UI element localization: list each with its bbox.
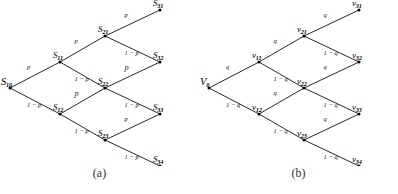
node-subscript: 34 [157,158,163,165]
node-subscript: 11 [57,54,63,61]
panel-b-option-lattice: (b) q1 − qq1 − qq1 − qq1 − qq1 − qq1 − q… [199,0,398,194]
edge-probability-label: 1 − q [274,128,288,135]
lattice-edge [259,36,304,62]
lattice-edge [304,10,359,36]
lattice-node-label: S12 [53,103,64,112]
panel-b-caption: (b) [199,166,398,181]
lattice-node-label: V0 [200,77,210,88]
lattice-node-label: S33 [153,103,164,112]
edge-probability-label: 1 − p [75,76,89,83]
edge-probability-label: q [226,64,229,71]
node-subscript: 21 [301,28,307,35]
node-subscript: 31 [356,2,362,9]
node-subscript: 11 [256,54,262,61]
binomial-lattice-figure: (a) p1 − pp1 − pp1 − pp1 − pp1 − pp1 − p… [0,0,398,194]
lattice-node-label: v11 [252,51,262,60]
node-subscript: 21 [102,28,108,35]
edge-probability-label: 1 − p [125,154,139,161]
node-subscript: 22 [102,80,108,87]
node-subscript: 22 [301,80,307,87]
lattice-node-label: v22 [297,77,307,86]
panel-a-asset-lattice: (a) p1 − pp1 − pp1 − pp1 − pp1 − pp1 − p… [0,0,199,194]
lattice-node-label: S32 [153,51,164,60]
edge-probability-label: q [324,64,327,71]
lattice-node-label: v21 [297,25,307,34]
edge-probability-label: 1 − q [226,102,240,109]
lattice-node-label: S23 [98,129,109,138]
lattice-edge [10,62,60,88]
edge-probability-label: 1 − q [274,76,288,83]
edge-probability-label: p [125,64,129,72]
lattice-edge [105,10,160,36]
edge-probability-label: 1 − q [324,154,338,161]
node-subscript: 32 [356,54,362,61]
edge-probability-label: p [27,64,30,71]
node-subscript: 32 [157,54,163,61]
edge-probability-label: p [75,90,79,98]
node-subscript: 23 [301,132,307,139]
lattice-node-label: S22 [98,77,109,86]
panel-a-caption: (a) [0,166,199,181]
lattice-edge [304,62,359,88]
node-subscript: 12 [57,106,63,113]
lattice-node-label: S21 [98,25,109,34]
lattice-node-label: v32 [352,51,362,60]
lattice-edge [105,62,160,88]
lattice-node-label: S10 [1,77,12,88]
lattice-node-label: S31 [153,0,164,8]
lattice-node-label: v23 [297,129,307,138]
lattice-node-label: S34 [153,155,164,164]
edge-probability-label: q [324,12,327,19]
node-subscript: 0 [206,81,209,88]
edge-probability-label: 1 − q [324,102,338,109]
edge-probability-label: p [125,12,128,19]
edge-probability-label: p [125,116,128,123]
edge-probability-label: q [324,116,327,123]
lattice-node-label: S11 [53,51,63,60]
lattice-edge [60,88,105,114]
lattice-node-label: v12 [252,103,262,112]
edge-probability-label: 1 − q [324,50,338,57]
edge-probability-label: 1 − p [27,102,41,109]
edge-probability-label: q [274,38,277,45]
lattice-edge [259,88,304,114]
node-subscript: 12 [256,106,262,113]
lattice-node-label: v33 [352,103,362,112]
lattice-node-label: v31 [352,0,362,8]
lattice-node-label: v34 [352,155,362,164]
node-subscript: 23 [102,132,108,139]
node-subscript: 33 [356,106,362,113]
lattice-edge [105,114,160,140]
edge-probability-label: p [75,38,78,45]
node-subscript: 31 [157,2,163,9]
node-subscript: 34 [356,158,362,165]
lattice-edge [209,62,259,88]
lattice-edge [60,36,105,62]
edge-probability-label: 1 − p [75,128,89,135]
node-subscript: 33 [157,106,163,113]
edge-probability-label: 1 − p [125,102,139,109]
edge-probability-label: q [274,90,277,97]
edge-probability-label: 1 − p [125,50,139,57]
lattice-edge [304,114,359,140]
node-subscript: 10 [6,81,12,88]
